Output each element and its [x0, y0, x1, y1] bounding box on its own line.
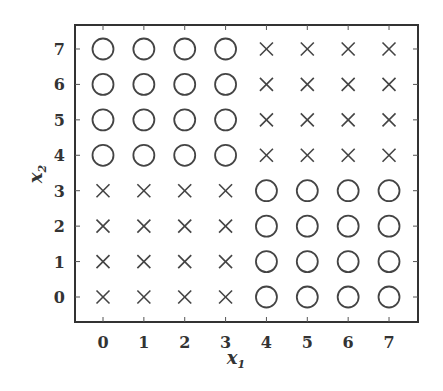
plot-frame [75, 25, 418, 322]
circle-marker [338, 216, 359, 237]
circle-marker [133, 74, 154, 95]
cross-marker [97, 291, 110, 304]
circle-marker [297, 251, 318, 272]
cross-marker [342, 149, 355, 162]
circle-marker [93, 145, 114, 166]
data-markers [93, 38, 400, 307]
cross-marker [342, 78, 355, 91]
circle-marker [93, 38, 114, 59]
y-tick-label: 2 [54, 217, 65, 236]
circle-marker [133, 109, 154, 130]
circle-marker [256, 180, 277, 201]
scatter-chart: 01234567 01234567 x1 x2 [0, 0, 443, 391]
cross-marker [260, 149, 273, 162]
cross-marker [342, 113, 355, 126]
circle-marker [256, 287, 277, 308]
cross-marker [178, 291, 191, 304]
circle-marker [256, 251, 277, 272]
circle-marker [338, 180, 359, 201]
cross-marker [219, 184, 232, 197]
x-tick-labels: 01234567 [97, 333, 394, 352]
circle-marker [215, 109, 236, 130]
circle-marker [174, 109, 195, 130]
circle-marker [379, 216, 400, 237]
circle-marker [379, 287, 400, 308]
cross-marker [137, 184, 150, 197]
x-tick-label: 7 [383, 333, 394, 352]
circle-marker [133, 38, 154, 59]
circle-marker [174, 38, 195, 59]
x-axis-label: x1 [226, 347, 245, 371]
cross-marker [219, 220, 232, 233]
axis-ticks [75, 25, 418, 322]
x-tick-label: 0 [97, 333, 108, 352]
circle-marker [93, 74, 114, 95]
cross-marker [383, 149, 396, 162]
cross-marker [97, 184, 110, 197]
cross-marker [342, 42, 355, 55]
cross-marker [97, 220, 110, 233]
y-tick-label: 1 [54, 253, 65, 272]
circle-marker [256, 216, 277, 237]
circle-marker [338, 287, 359, 308]
circle-marker [215, 145, 236, 166]
circle-marker [174, 145, 195, 166]
cross-marker [301, 42, 314, 55]
circle-marker [133, 145, 154, 166]
y-tick-label: 0 [54, 288, 65, 307]
x-tick-label: 4 [261, 333, 272, 352]
y-tick-label: 7 [54, 40, 65, 59]
cross-marker [260, 78, 273, 91]
cross-marker [383, 42, 396, 55]
cross-marker [137, 291, 150, 304]
x-tick-label: 5 [302, 333, 313, 352]
cross-marker [383, 113, 396, 126]
cross-marker [260, 113, 273, 126]
circle-marker [174, 74, 195, 95]
y-axis-label: x2 [25, 164, 49, 184]
cross-marker [219, 255, 232, 268]
y-tick-label: 3 [54, 182, 65, 201]
x-tick-label: 2 [179, 333, 190, 352]
circle-marker [93, 109, 114, 130]
y-tick-labels: 01234567 [54, 40, 65, 307]
cross-marker [260, 42, 273, 55]
circle-marker [338, 251, 359, 272]
cross-marker [178, 255, 191, 268]
svg-text:x2: x2 [25, 164, 49, 184]
cross-marker [178, 220, 191, 233]
circle-marker [297, 287, 318, 308]
cross-marker [301, 113, 314, 126]
circle-marker [297, 216, 318, 237]
circle-marker [379, 180, 400, 201]
cross-marker [178, 184, 191, 197]
circle-marker [215, 38, 236, 59]
cross-marker [301, 78, 314, 91]
cross-marker [301, 149, 314, 162]
cross-marker [219, 291, 232, 304]
x-tick-label: 6 [343, 333, 354, 352]
cross-marker [383, 78, 396, 91]
circle-marker [215, 74, 236, 95]
circle-marker [297, 180, 318, 201]
y-tick-label: 5 [54, 111, 65, 130]
y-tick-label: 6 [54, 75, 65, 94]
cross-marker [137, 255, 150, 268]
cross-marker [97, 255, 110, 268]
x-tick-label: 1 [138, 333, 149, 352]
y-tick-label: 4 [54, 146, 65, 165]
cross-marker [137, 220, 150, 233]
circle-marker [379, 251, 400, 272]
